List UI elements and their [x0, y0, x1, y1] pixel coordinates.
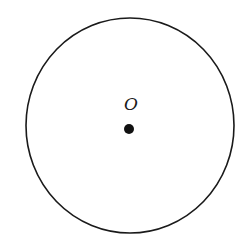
center-label: O: [124, 94, 138, 114]
center-point: [124, 124, 134, 134]
circle-diagram: O: [0, 0, 250, 243]
